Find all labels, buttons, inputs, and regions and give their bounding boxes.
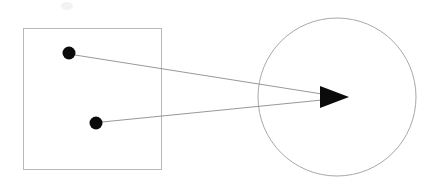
upper-connector-line — [75, 55, 322, 94]
faint-artifact-icon — [61, 2, 73, 10]
source-region-square — [24, 29, 162, 170]
diagram-canvas — [0, 0, 433, 188]
arrowhead-icon — [320, 86, 349, 108]
diagram-svg — [0, 0, 433, 188]
lower-connector-line — [102, 100, 322, 122]
lower-point — [90, 117, 103, 130]
upper-point — [63, 47, 76, 60]
